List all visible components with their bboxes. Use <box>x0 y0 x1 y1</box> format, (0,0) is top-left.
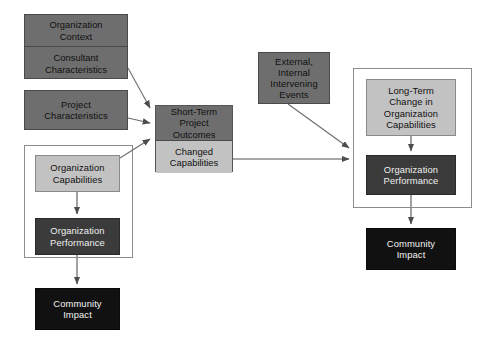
organization-context-group: Organization Context Consultant Characte… <box>24 14 128 79</box>
node-organization-performance-right: Organization Performance <box>366 155 456 195</box>
node-short-term-project-outcomes: Short-Term Project Outcomes <box>156 106 232 141</box>
edge-project-to-shortterm <box>128 118 150 123</box>
node-organization-capabilities-left: Organization Capabilities <box>35 155 120 192</box>
node-organization-performance-left: Organization Performance <box>35 218 120 255</box>
diagram-canvas: Organization Context Consultant Characte… <box>0 0 498 344</box>
node-long-term-change-in-organization-capabilities: Long-Term Change in Organization Capabil… <box>366 79 456 136</box>
node-community-impact-left: Community Impact <box>35 288 120 330</box>
node-organization-context: Organization Context <box>25 15 127 47</box>
edge-consultant-to-shortterm <box>128 68 150 108</box>
node-community-impact-right: Community Impact <box>366 228 456 270</box>
node-external-internal-intervening-events: External, Internal Intervening Events <box>258 52 330 104</box>
node-changed-capabilities: Changed Capabilities <box>156 141 232 173</box>
edge-events-to-rightgroup <box>288 104 349 148</box>
node-consultant-characteristics: Consultant Characteristics <box>25 47 127 80</box>
node-project-characteristics: Project Characteristics <box>24 90 128 130</box>
short-term-outcomes-group: Short-Term Project Outcomes Changed Capa… <box>155 105 233 172</box>
